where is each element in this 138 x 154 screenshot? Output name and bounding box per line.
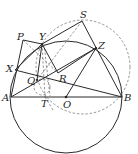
- label-Z: Z: [97, 40, 106, 51]
- label-P: P: [16, 31, 24, 42]
- point-Z: [95, 47, 97, 49]
- segment-S-B: [82, 21, 122, 97]
- point-Q: [36, 79, 38, 81]
- label-X: X: [5, 63, 14, 74]
- point-O: [65, 96, 68, 99]
- label-T: T: [41, 98, 49, 109]
- segment-Y-R: [42, 44, 58, 73]
- label-O: O: [63, 99, 71, 110]
- label-S: S: [80, 9, 87, 20]
- label-Q: Q: [27, 75, 35, 86]
- small-dashed-circle: [34, 79, 50, 95]
- label-B: B: [123, 92, 131, 103]
- label-Y: Y: [39, 31, 47, 42]
- label-A: A: [1, 92, 9, 103]
- label-R: R: [58, 73, 67, 84]
- dashed-circle: [36, 20, 130, 114]
- geometry-diagram: P Y S Z X Q R A T O B: [0, 0, 138, 154]
- point-Y: [41, 43, 43, 45]
- segment-Y-S: [42, 21, 82, 44]
